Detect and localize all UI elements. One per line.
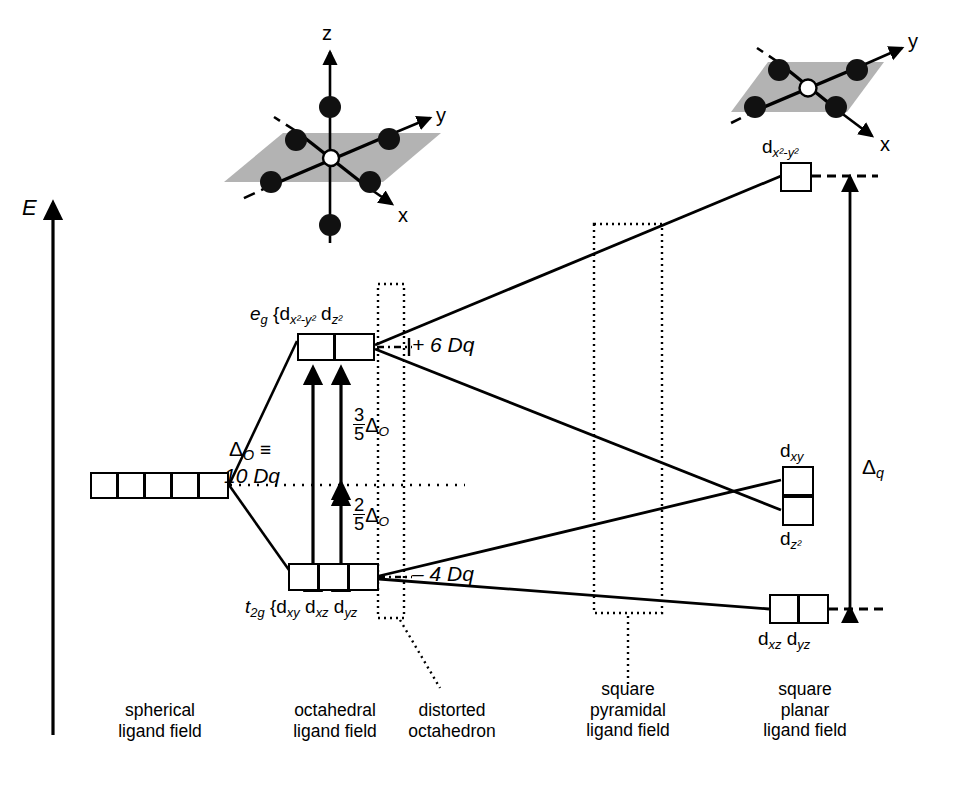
octahedron-axis-z-label: z	[322, 22, 332, 44]
diagram-wires	[0, 0, 974, 793]
dz2-label: dz²	[780, 528, 801, 552]
eg-box-2	[334, 333, 375, 361]
caption-square-planar: square planar ligand field	[730, 679, 880, 741]
t2g-level-label: t2g {dxy dxz dyz	[245, 596, 357, 620]
eg-level-label: eg {dx²-y² dz²	[250, 303, 342, 327]
plus-six-dq-label: + 6 Dq	[412, 333, 474, 357]
squareplanar-axis-x-label: x	[880, 133, 890, 155]
spherical-box-1	[90, 472, 118, 499]
delta-o-label: ΔO ≡	[229, 437, 271, 463]
two-fifths-delta-o-label: 2 5 ΔO	[353, 496, 389, 533]
square-planar-complex-graphic	[729, 48, 902, 136]
correlation-lines	[375, 176, 781, 609]
octahedron-axis-y-label: y	[436, 104, 446, 126]
dx2y2-box	[780, 162, 812, 192]
dxz-dyz-label: dxz dyz	[758, 628, 810, 652]
spherical-box-4	[171, 472, 199, 499]
square-pyramidal-marker	[594, 224, 662, 686]
caption-distorted-octahedron: distorted octahedron	[377, 700, 527, 741]
squareplanar-axis-y-label: y	[908, 30, 918, 52]
caption-spherical: spherical ligand field	[85, 700, 235, 741]
spherical-box-3	[144, 472, 172, 499]
delta-q-arrow	[812, 176, 884, 609]
minus-four-dq-label: – 4 Dq	[412, 562, 474, 586]
octahedral-complex-graphic	[224, 52, 441, 243]
three-fifths-delta-o-label: 3 5 ΔO	[353, 406, 389, 443]
crystal-field-diagram: E z y x y x eg {dx²-y² dz² t2g {dxy dxz …	[0, 0, 974, 793]
caption-square-pyramidal: square pyramidal ligand field	[553, 679, 703, 741]
ten-dq-label: 10 Dq	[224, 464, 280, 488]
fraction-three-fifths: 3 5	[353, 406, 365, 443]
t2g-box-1	[288, 563, 319, 591]
dz2-box	[782, 496, 814, 526]
dxy-label: dxy	[780, 440, 803, 464]
eg-box-1	[297, 333, 335, 361]
t2g-box-2	[318, 563, 349, 591]
delta-q-label: Δq	[862, 455, 884, 481]
t2g-box-3	[348, 563, 379, 591]
spherical-box-2	[117, 472, 145, 499]
dxy-box	[782, 466, 814, 496]
dxz-box	[769, 594, 799, 624]
fraction-two-fifths: 2 5	[353, 496, 365, 533]
dyz-box	[798, 594, 829, 624]
dx2y2-label: dx²-y²	[762, 136, 798, 160]
energy-axis-label: E	[22, 196, 37, 221]
octahedron-axis-x-label: x	[398, 204, 408, 226]
